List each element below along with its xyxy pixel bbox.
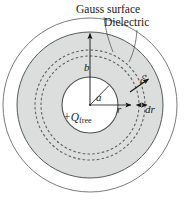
electric-field-label: ℰ: [139, 74, 146, 85]
free-charge-subscript: free: [79, 116, 91, 125]
radius-r-label: r: [117, 104, 121, 115]
thickness-dr-label: dr: [145, 104, 155, 115]
radius-a-label: a: [96, 92, 102, 103]
gauss-surface-label: Gauss surface: [76, 4, 140, 16]
radius-b-label: b: [84, 62, 90, 73]
free-charge-symbol: +Q: [63, 111, 79, 123]
free-charge-label: +Qfree: [63, 112, 92, 124]
dielectric-label: Dielectric: [104, 17, 149, 29]
